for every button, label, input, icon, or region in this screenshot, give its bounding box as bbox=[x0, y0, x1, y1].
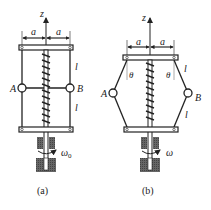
mass-a bbox=[109, 89, 117, 97]
rod-lower-left bbox=[113, 93, 127, 127]
label-b: B bbox=[77, 83, 83, 94]
dimension-label-a-right: a bbox=[160, 36, 165, 47]
mechanism-diagram: z a a A B l l bbox=[0, 0, 211, 210]
angular-velocity-label: ω0 bbox=[61, 147, 72, 160]
mass-b bbox=[184, 89, 192, 97]
z-axis-label: z bbox=[141, 12, 146, 23]
length-label-lower: l bbox=[185, 109, 188, 120]
caption-b: (b) bbox=[142, 185, 154, 197]
mass-b bbox=[66, 84, 74, 92]
bearing-right bbox=[153, 137, 159, 149]
bearing-left bbox=[37, 137, 43, 149]
bottom-collar bbox=[124, 127, 178, 132]
length-label-lower: l bbox=[75, 102, 78, 113]
top-collar bbox=[19, 45, 73, 50]
z-axis-label: z bbox=[39, 8, 44, 19]
dimension-label-a-right: a bbox=[56, 26, 61, 37]
mass-a bbox=[18, 84, 26, 92]
dimension-label-a-left: a bbox=[136, 36, 141, 47]
bearing-left bbox=[141, 137, 147, 149]
bottom-collar bbox=[19, 127, 73, 132]
top-collar bbox=[123, 55, 178, 60]
length-label-upper: l bbox=[75, 61, 78, 72]
angle-label-left: θ bbox=[129, 70, 134, 80]
caption-a: (a) bbox=[37, 185, 48, 197]
label-b: B bbox=[195, 92, 201, 103]
label-a: A bbox=[9, 83, 17, 94]
label-a: A bbox=[100, 88, 108, 99]
figure-a: z a a A B l l bbox=[9, 8, 83, 197]
figure-b: z a a θ θ A B l l bbox=[100, 12, 201, 197]
angular-velocity-label: ω bbox=[166, 147, 173, 158]
rod-upper-left bbox=[113, 60, 127, 93]
length-label-upper: l bbox=[184, 63, 187, 74]
bearing-right bbox=[49, 137, 55, 149]
dimension-label-a-left: a bbox=[31, 26, 36, 37]
angle-label-right: θ bbox=[166, 70, 171, 80]
